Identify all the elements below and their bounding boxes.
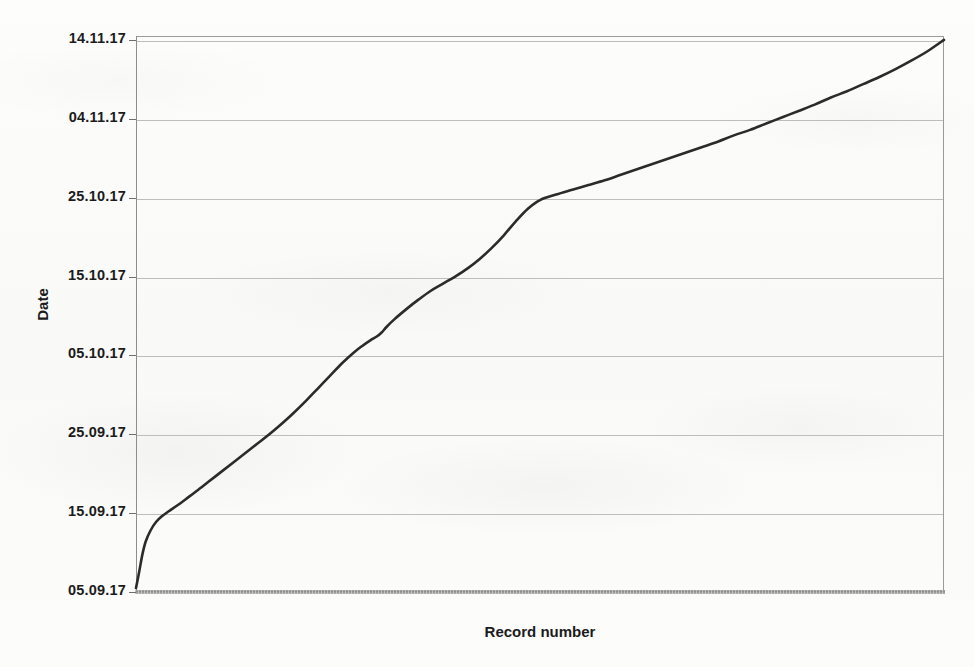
y-axis-tick-label: 05.10.17 [68, 345, 126, 361]
y-axis-tick-label: 25.10.17 [68, 188, 126, 204]
y-axis-tick-label: 04.11.17 [69, 109, 126, 125]
gridline [137, 514, 943, 515]
y-axis-tick-mark [129, 119, 136, 120]
y-axis-tick-mark [129, 40, 136, 41]
y-axis-tick-mark [129, 198, 136, 199]
gridline [137, 278, 943, 279]
y-axis-tick-label-group: 05.09.1715.09.1725.09.1705.10.1715.10.17… [0, 0, 126, 667]
y-axis-tick-label: 15.09.17 [68, 503, 126, 519]
y-axis-tick-mark [129, 434, 136, 435]
y-axis-tick-mark [129, 277, 136, 278]
y-axis-tick-label: 25.09.17 [68, 424, 126, 440]
y-axis-tick-label: 15.10.17 [68, 267, 126, 283]
plot-area [136, 36, 944, 592]
x-axis-title: Record number [136, 623, 944, 640]
gridline [137, 41, 943, 42]
y-axis-tick-label: 05.09.17 [68, 582, 126, 598]
y-axis-tick-mark [129, 355, 136, 356]
y-axis-title: Date [34, 255, 51, 355]
gridline [137, 356, 943, 357]
chart-figure: 05.09.1715.09.1725.09.1705.10.1715.10.17… [0, 0, 974, 667]
gridline [137, 120, 943, 121]
gridline [137, 435, 943, 436]
gridline [137, 199, 943, 200]
y-axis-tick-mark [129, 513, 136, 514]
y-axis-tick-label: 14.11.17 [69, 30, 126, 46]
x-axis-line [135, 590, 945, 594]
y-axis-tick-mark [129, 592, 136, 593]
